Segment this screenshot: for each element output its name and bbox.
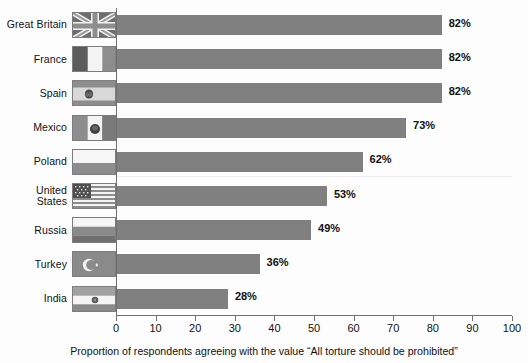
- category-label: Mexico: [33, 122, 72, 134]
- bar-value-label: 28%: [235, 290, 257, 302]
- category-label: India: [44, 293, 72, 305]
- category-label: Poland: [34, 156, 72, 168]
- x-axis-tick-label: 40: [268, 322, 280, 334]
- plot-area: 82%82%82%73%62%53%49%36%28%: [116, 8, 512, 316]
- bar-value-label: 82%: [449, 51, 471, 63]
- bar-row: 82%: [117, 42, 512, 76]
- bar: [117, 83, 442, 103]
- bar: [117, 118, 406, 138]
- category-row: India: [0, 282, 116, 316]
- x-axis-tick: [156, 316, 157, 321]
- category-label: Turkey: [35, 259, 72, 271]
- bar: [117, 186, 327, 206]
- bar-row: 73%: [117, 111, 512, 145]
- category-row: Mexico: [0, 111, 116, 145]
- bar: [117, 15, 442, 35]
- x-axis-tick: [274, 316, 275, 321]
- plot-faint-rule: [117, 176, 512, 177]
- bar-value-label: 36%: [267, 256, 289, 268]
- x-axis-tick-label: 10: [149, 322, 161, 334]
- bar: [117, 254, 260, 274]
- bar-row: 36%: [117, 247, 512, 281]
- flag-india-icon: [72, 286, 116, 312]
- x-axis-tick-label: 90: [466, 322, 478, 334]
- bar: [117, 289, 228, 309]
- x-axis-tick: [314, 316, 315, 321]
- category-row: France: [0, 42, 116, 76]
- flag-france-icon: [72, 46, 116, 72]
- bar-row: 82%: [117, 8, 512, 42]
- bar-value-label: 49%: [318, 222, 340, 234]
- x-axis-tick-label: 80: [427, 322, 439, 334]
- bar-chart: Great BritainFranceSpainMexicoPolandUnit…: [0, 0, 528, 363]
- x-axis: 0102030405060708090100: [116, 316, 512, 338]
- x-axis-tick: [472, 316, 473, 321]
- category-label: Spain: [40, 88, 72, 100]
- bar-value-label: 82%: [449, 17, 471, 29]
- bar-row: 28%: [117, 282, 512, 316]
- x-axis-tick-label: 20: [189, 322, 201, 334]
- category-row: Poland: [0, 145, 116, 179]
- category-row: Russia: [0, 213, 116, 247]
- x-axis-tick-label: 0: [113, 322, 119, 334]
- bar-value-label: 53%: [334, 188, 356, 200]
- x-axis-tick: [354, 316, 355, 321]
- category-axis-column: Great BritainFranceSpainMexicoPolandUnit…: [0, 8, 116, 316]
- x-axis-tick: [433, 316, 434, 321]
- x-axis-tick-label: 100: [503, 322, 521, 334]
- bar-row: 62%: [117, 145, 512, 179]
- x-axis-title: Proportion of respondents agreeing with …: [0, 345, 528, 357]
- bar: [117, 49, 442, 69]
- x-axis-tick-label: 70: [387, 322, 399, 334]
- flag-united-states-icon: [72, 183, 116, 209]
- bar-value-label: 82%: [449, 85, 471, 97]
- x-axis-tick-label: 60: [347, 322, 359, 334]
- category-label: Great Britain: [7, 19, 72, 31]
- category-row: Spain: [0, 76, 116, 110]
- bar: [117, 152, 363, 172]
- x-axis-tick: [116, 316, 117, 321]
- bar-value-label: 62%: [370, 153, 392, 165]
- x-axis-tick-label: 50: [308, 322, 320, 334]
- flag-mexico-icon: [72, 115, 116, 141]
- bar-value-label: 73%: [413, 119, 435, 131]
- category-label: United States: [36, 185, 72, 208]
- flag-spain-icon: [72, 80, 116, 106]
- flag-russia-icon: [72, 217, 116, 243]
- x-axis-tick: [393, 316, 394, 321]
- x-axis-tick: [195, 316, 196, 321]
- flag-great-britain-icon: [72, 12, 116, 38]
- flag-turkey-icon: [72, 251, 116, 277]
- x-axis-tick: [512, 316, 513, 321]
- category-row: Great Britain: [0, 8, 116, 42]
- x-axis-tick: [235, 316, 236, 321]
- bar: [117, 220, 311, 240]
- bar-row: 49%: [117, 213, 512, 247]
- category-label: Russia: [34, 225, 72, 237]
- category-row: Turkey: [0, 247, 116, 281]
- x-axis-tick-label: 30: [229, 322, 241, 334]
- category-label: France: [34, 54, 72, 66]
- category-row: United States: [0, 179, 116, 213]
- bar-row: 53%: [117, 179, 512, 213]
- bar-row: 82%: [117, 76, 512, 110]
- flag-poland-icon: [72, 149, 116, 175]
